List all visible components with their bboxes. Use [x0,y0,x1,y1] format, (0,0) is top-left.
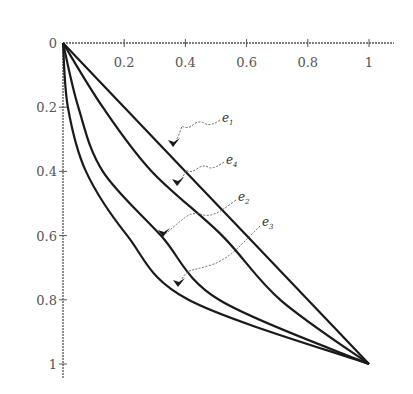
x-tick-label: 1 [365,55,373,70]
x-tick-label: 0.2 [114,55,135,70]
y-tick-label: 0.6 [36,229,57,244]
leader-line-e1 [173,120,220,147]
chart: 0.20.40.60.8100.20.40.60.81 e1e4e2e3 [0,0,413,394]
x-tick-label: 0.4 [175,55,196,70]
annotations: e1e4e2e3 [158,111,274,287]
curves [63,43,369,364]
y-tick-label: 0.8 [36,293,57,308]
x-tick-label: 0.8 [297,55,318,70]
y-tick-label: 1 [49,357,57,372]
arrowhead-icon [173,278,185,287]
curve-label-e2: e2 [238,190,250,206]
curve-label-e3: e3 [262,215,274,231]
arrowhead-icon [168,138,180,147]
y-tick-label: 0 [49,36,57,51]
curve-e1 [63,43,369,364]
y-tick-label: 0.2 [36,100,57,115]
curve-label-e1: e1 [222,111,234,127]
leader-line-e4 [177,162,224,186]
curve-label-e4: e4 [226,153,238,169]
y-tick-label: 0.4 [36,164,57,179]
x-tick-label: 0.6 [236,55,257,70]
arrowhead-icon [172,177,184,186]
